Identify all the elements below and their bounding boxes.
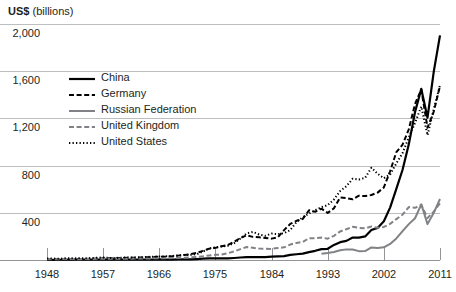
legend-item-united-states[interactable]: United States	[69, 133, 196, 149]
legend-label: China	[101, 71, 130, 83]
legend-swatch-icon	[69, 87, 95, 99]
legend-swatch-icon	[69, 119, 95, 131]
legend-label: United Kingdom	[101, 119, 179, 131]
legend-item-united-kingdom[interactable]: United Kingdom	[69, 117, 196, 133]
legend-label: Russian Federation	[101, 103, 196, 115]
legend-swatch-icon	[69, 103, 95, 115]
legend-item-china[interactable]: China	[69, 69, 196, 85]
legend: ChinaGermanyRussian FederationUnited Kin…	[69, 69, 196, 149]
legend-swatch-icon	[69, 71, 95, 83]
legend-item-germany[interactable]: Germany	[69, 85, 196, 101]
legend-label: Germany	[101, 87, 146, 99]
legend-label: United States	[101, 135, 167, 147]
series-line-united-kingdom	[47, 203, 440, 259]
legend-item-russian-federation[interactable]: Russian Federation	[69, 101, 196, 117]
legend-swatch-icon	[69, 135, 95, 147]
